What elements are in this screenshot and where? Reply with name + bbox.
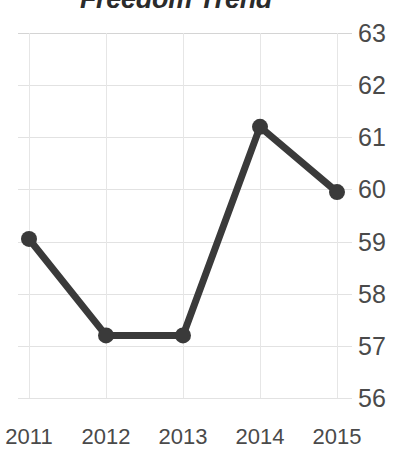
y-axis-label-57: 57 [358, 333, 402, 359]
y-axis-label-59: 59 [358, 229, 402, 255]
y-axis-label-58: 58 [358, 281, 402, 307]
chart-container: Freedom Trend 5657585960616263 201120122… [0, 0, 412, 460]
series-markers [21, 119, 345, 344]
line-series-freedom-trend [18, 33, 352, 398]
data-point-2013 [175, 327, 191, 343]
chart-title: Freedom Trend [0, 0, 352, 14]
y-axis-label-63: 63 [358, 20, 402, 46]
data-point-2012 [98, 327, 114, 343]
y-axis-label-61: 61 [358, 124, 402, 150]
series-line-path [29, 127, 337, 336]
data-point-2011 [21, 231, 37, 247]
y-axis-label-62: 62 [358, 72, 402, 98]
data-point-2014 [252, 119, 268, 135]
x-axis-label-2015: 2015 [292, 424, 382, 450]
y-axis-label-60: 60 [358, 176, 402, 202]
gridline-y-56 [18, 398, 352, 399]
data-point-2015 [329, 184, 345, 200]
plot-area [18, 33, 352, 398]
y-axis-label-56: 56 [358, 385, 402, 411]
